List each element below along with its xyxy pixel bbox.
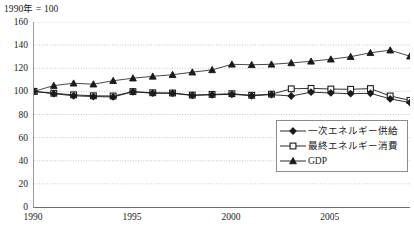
data-point-marker xyxy=(407,53,410,59)
series-line xyxy=(34,50,410,91)
x-axis-label: 2005 xyxy=(320,212,339,222)
x-axis-label: 1995 xyxy=(122,212,141,222)
data-point-marker xyxy=(387,47,394,53)
legend-item: 最終エネルギー消費 xyxy=(280,138,404,153)
plot-area xyxy=(33,22,410,208)
legend-marker-square-open-icon xyxy=(280,140,306,152)
y-axis-label: 160 xyxy=(0,17,28,27)
data-point-marker xyxy=(288,93,294,99)
legend-marker-diamond-icon xyxy=(280,125,306,137)
y-axis-label: 80 xyxy=(0,110,28,120)
legend-label: 一次エネルギー供給 xyxy=(308,125,398,137)
y-axis-label: 120 xyxy=(0,63,28,73)
chart-container: 1990年 = 100 020406080100120140160 199019… xyxy=(0,0,414,240)
y-axis-label: 60 xyxy=(0,133,28,143)
data-point-marker xyxy=(70,80,77,86)
legend-item: 一次エネルギー供給 xyxy=(280,123,404,138)
legend-label: GDP xyxy=(308,155,327,167)
data-point-marker xyxy=(288,86,294,92)
y-axis-label: 100 xyxy=(0,86,28,96)
legend-label: 最終エネルギー消費 xyxy=(308,140,398,152)
y-axis-label: 0 xyxy=(0,202,28,212)
series-canvas xyxy=(34,22,410,207)
x-axis-label: 2000 xyxy=(221,212,240,222)
y-axis-label: 40 xyxy=(0,156,28,166)
chart-legend: 一次エネルギー供給最終エネルギー消費GDP xyxy=(276,120,408,172)
x-axis-label: 1990 xyxy=(24,212,43,222)
legend-item: GDP xyxy=(280,153,404,168)
y-axis-label: 20 xyxy=(0,179,28,189)
y-axis-label: 140 xyxy=(0,40,28,50)
legend-marker-triangle-icon xyxy=(280,155,306,167)
